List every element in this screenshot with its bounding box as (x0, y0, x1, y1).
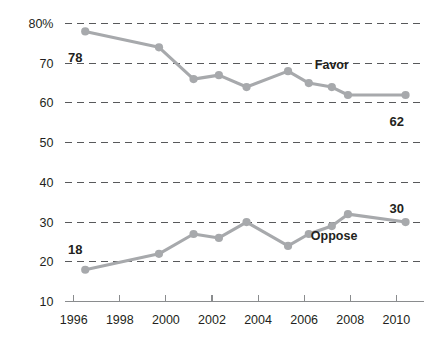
data-point-favor-0 (81, 27, 89, 35)
data-point-oppose-8 (344, 210, 352, 218)
data-point-oppose-3 (215, 234, 223, 242)
x-tick-label-1998: 1998 (106, 313, 134, 327)
data-point-oppose-5 (284, 242, 292, 250)
data-point-oppose-2 (189, 230, 197, 238)
x-axis-tick-labels: 19961998200020022004200620082010 (60, 313, 410, 327)
x-tick-label-2006: 2006 (290, 313, 318, 327)
chart-container: 1020304050607080% 1996199820002002200420… (0, 0, 435, 342)
axes (65, 295, 425, 302)
gridlines (65, 24, 425, 262)
series-label-oppose: Oppose (311, 229, 358, 243)
data-point-favor-4 (242, 83, 250, 91)
favor-end-value: 62 (390, 114, 404, 129)
y-tick-label-50: 50 (40, 136, 54, 150)
data-point-favor-3 (215, 71, 223, 79)
favor-start-value: 78 (68, 50, 82, 65)
y-axis-tick-labels: 1020304050607080% (28, 17, 53, 309)
x-tick-label-2008: 2008 (336, 313, 364, 327)
data-point-oppose-1 (155, 250, 163, 258)
x-tick-label-2004: 2004 (244, 313, 272, 327)
data-point-oppose-4 (242, 218, 250, 226)
y-tick-label-60: 60 (40, 96, 54, 110)
x-tick-label-2002: 2002 (198, 313, 226, 327)
data-point-favor-1 (155, 43, 163, 51)
oppose-end-value: 30 (390, 201, 404, 216)
data-point-favor-2 (189, 75, 197, 83)
data-series (81, 27, 410, 273)
y-tick-label-40: 40 (40, 176, 54, 190)
y-tick-label-20: 20 (40, 255, 54, 269)
data-point-favor-9 (401, 91, 409, 99)
series-label-favor: Favor (315, 58, 349, 72)
x-tick-label-2010: 2010 (382, 313, 410, 327)
line-chart: 1020304050607080% 1996199820002002200420… (0, 0, 435, 342)
y-tick-label-10: 10 (40, 295, 54, 309)
data-point-favor-5 (284, 67, 292, 75)
oppose-start-value: 18 (68, 242, 82, 257)
y-tick-label-70: 70 (40, 57, 54, 71)
x-tick-label-2000: 2000 (152, 313, 180, 327)
y-tick-label-80: 80% (28, 17, 53, 31)
data-point-favor-6 (305, 79, 313, 87)
data-point-oppose-0 (81, 266, 89, 274)
data-point-oppose-9 (401, 218, 409, 226)
data-point-favor-8 (344, 91, 352, 99)
data-point-favor-7 (328, 83, 336, 91)
x-tick-label-1996: 1996 (60, 313, 88, 327)
y-tick-label-30: 30 (40, 216, 54, 230)
